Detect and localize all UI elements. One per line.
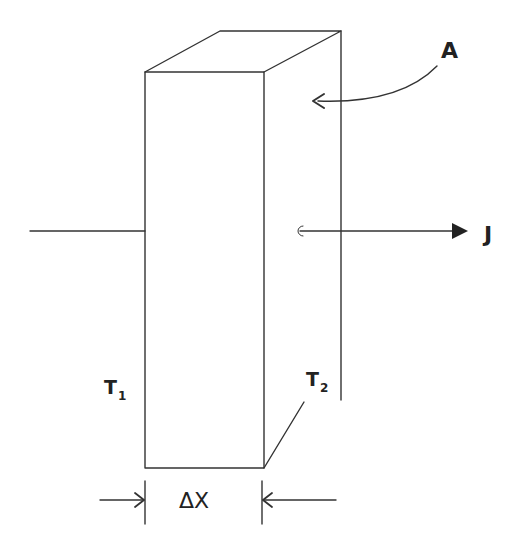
thickness-label: ΔX	[179, 490, 209, 512]
slab-drawing	[0, 0, 520, 552]
flux-arrowhead	[452, 223, 468, 239]
area-label: A	[441, 40, 458, 62]
t2-subscript: 2	[320, 381, 328, 395]
area-leader-curve	[318, 66, 437, 101]
flux-label: J	[484, 224, 492, 246]
t1-label: T1	[104, 378, 126, 397]
t2-base: T	[306, 368, 319, 390]
slab-top-face	[145, 31, 341, 72]
t1-base: T	[104, 376, 117, 398]
t2-leader-line	[264, 402, 304, 468]
slab-front-face	[145, 72, 264, 468]
t1-subscript: 1	[118, 389, 126, 403]
t2-label: T2	[306, 370, 328, 389]
diagram-canvas: A J T1 T2 ΔX	[0, 0, 520, 552]
